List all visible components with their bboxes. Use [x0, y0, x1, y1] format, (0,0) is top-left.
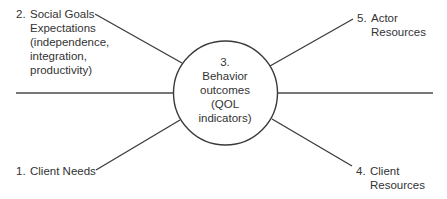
node-client-resources: 4.Client Resources [356, 164, 425, 192]
node-line: productivity) [16, 63, 109, 77]
node-line: Resources [356, 178, 425, 192]
node-line: Actor [371, 12, 398, 24]
node-line: (independence, [16, 35, 109, 49]
connector-client-resources [272, 119, 352, 166]
node-number: 1. [16, 164, 30, 178]
connector-client-needs [96, 120, 180, 170]
node-line: Client Needs [30, 165, 96, 177]
node-line: Expectations [16, 21, 109, 35]
center-line: Behavior [173, 69, 277, 83]
center-line: indicators) [173, 111, 277, 125]
node-number: 2. [16, 7, 30, 21]
node-number: 5. [357, 11, 371, 25]
center-number: 3. [173, 55, 277, 69]
node-social-goals: 2.Social Goals Expectations (independenc… [16, 7, 109, 77]
node-line: Social Goals [30, 8, 95, 20]
center-line: (QOL [173, 97, 277, 111]
connector-actor-resources [270, 19, 353, 66]
node-line: Resources [357, 25, 426, 39]
node-actor-resources: 5.Actor Resources [357, 11, 426, 39]
center-line: outcomes [173, 83, 277, 97]
center-node-behavior-outcomes: 3. Behavior outcomes (QOL indicators) [173, 55, 277, 125]
node-number: 4. [356, 164, 370, 178]
node-line: Client [370, 165, 399, 177]
node-client-needs: 1.Client Needs [16, 164, 96, 178]
node-line: integration, [16, 49, 109, 63]
